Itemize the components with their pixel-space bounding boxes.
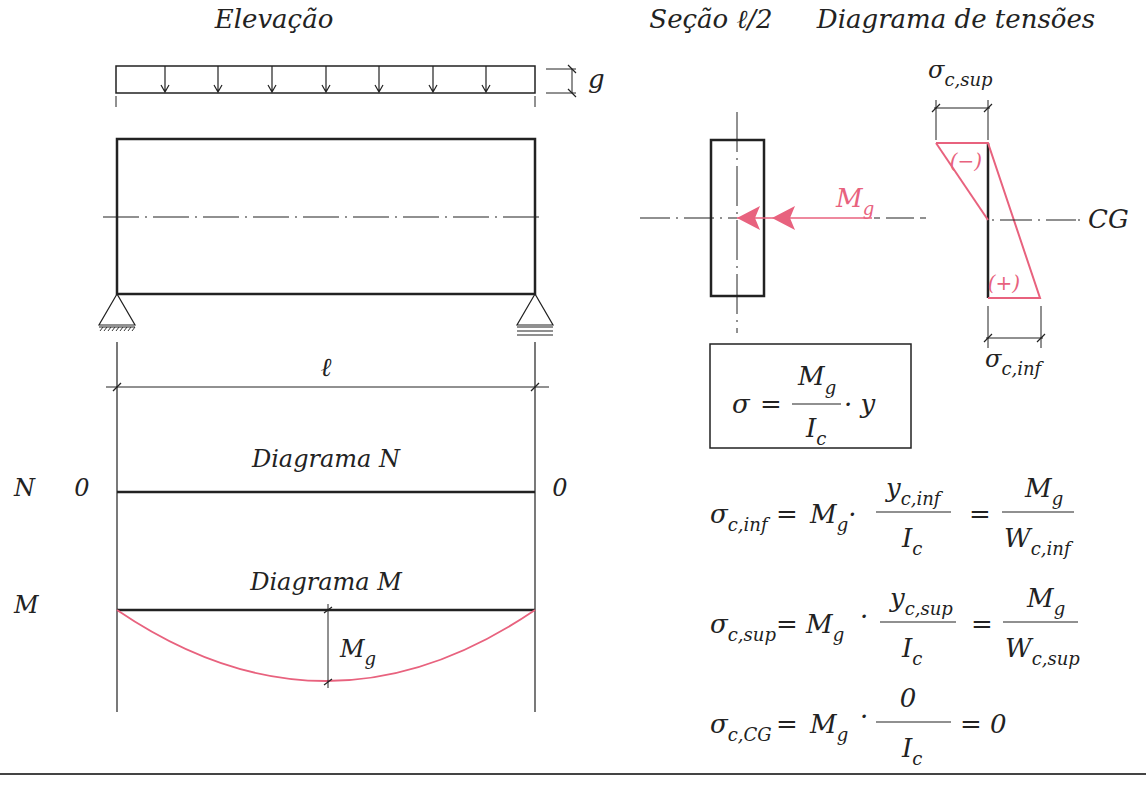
svg-text:·: · — [860, 601, 868, 631]
diagram-canvas: Elevação Seção ℓ/2 Diagrama de tensões g — [0, 0, 1146, 786]
svg-text:=: = — [971, 609, 993, 639]
compression-sign: (−) — [950, 149, 982, 173]
stress-bottom-label: σc,inf — [985, 345, 1045, 379]
svg-text:Wc,inf: Wc,inf — [1004, 523, 1074, 559]
m-max-label: Mg — [339, 635, 376, 669]
svg-text:=: = — [969, 499, 991, 529]
svg-text:=: = — [776, 499, 798, 529]
stress-diagram-header: Diagrama de tensões — [816, 4, 1095, 34]
elevation-header: Elevação — [214, 4, 334, 34]
n-row-label: N — [13, 474, 36, 502]
distributed-load: g — [116, 64, 605, 97]
svg-text:Ic: Ic — [901, 523, 922, 559]
svg-text:σc,inf: σc,inf — [710, 499, 771, 535]
svg-text:0: 0 — [900, 683, 917, 713]
svg-text:·: · — [860, 701, 868, 731]
svg-text:Mg: Mg — [1026, 583, 1065, 619]
svg-text:Wc,sup: Wc,sup — [1005, 633, 1080, 669]
section-header: Seção ℓ/2 — [649, 4, 772, 34]
n-left-value: 0 — [74, 474, 89, 502]
svg-text:yc,sup: yc,sup — [889, 583, 953, 619]
svg-text:Mg·: Mg· — [809, 499, 856, 535]
cg-label: CG — [1088, 204, 1129, 234]
stress-top-label: σc,sup — [928, 56, 993, 90]
load-label: g — [588, 64, 605, 94]
formula-stress-centroid: σc,CG = Mg · 0 Ic = 0 — [710, 683, 1007, 769]
svg-text:Ic: Ic — [805, 413, 826, 449]
span-label: ℓ — [321, 352, 332, 382]
svg-text:Mg: Mg — [797, 361, 836, 398]
roller-support-icon — [517, 294, 553, 335]
load-arrows-icon — [161, 66, 490, 92]
formula-stress-bottom-fiber: σc,inf = Mg· yc,inf Ic = Mg Wc,inf — [710, 473, 1074, 559]
svg-text:Mg: Mg — [805, 609, 844, 645]
svg-text:yc,inf: yc,inf — [885, 473, 944, 509]
svg-text:Mg: Mg — [809, 709, 848, 745]
svg-text:σc,sup: σc,sup — [710, 609, 776, 645]
svg-text:σc,CG: σc,CG — [710, 709, 772, 745]
svg-text:Ic: Ic — [901, 733, 922, 769]
svg-text:=: = — [776, 709, 798, 739]
m-diagram-parabola — [117, 610, 535, 681]
n-right-value: 0 — [552, 474, 567, 502]
m-row-label: M — [13, 591, 40, 619]
m-diagram-title: Diagrama M — [249, 568, 403, 596]
beam-bending-diagram: Elevação Seção ℓ/2 Diagrama de tensões g — [0, 0, 1146, 786]
pinned-support-icon — [99, 294, 135, 331]
svg-text:= 0: = 0 — [960, 709, 1007, 739]
formula-stress-general: σ = Mg Ic · y — [732, 361, 876, 449]
n-diagram-title: Diagrama N — [251, 445, 401, 473]
tension-sign: (+) — [988, 271, 1020, 295]
moment-label: Mg — [835, 183, 874, 219]
svg-text:Ic: Ic — [901, 633, 922, 669]
svg-text:σ: σ — [732, 389, 751, 419]
svg-text:Mg: Mg — [1024, 473, 1063, 509]
formula-stress-top-fiber: σc,sup = Mg · yc,sup Ic = Mg Wc,sup — [710, 583, 1080, 669]
svg-text:=: = — [776, 609, 798, 639]
svg-text:=: = — [760, 389, 782, 419]
svg-text:· y: · y — [844, 389, 876, 419]
